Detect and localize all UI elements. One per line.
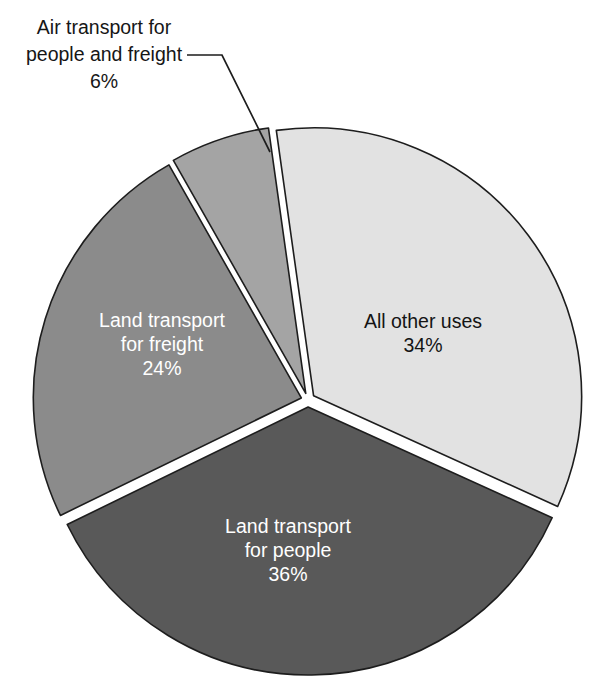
callout-label-text: Air transport forpeople and freight6% [26,16,183,92]
pie-chart-canvas: All other uses34%Land transportfor peopl… [0,0,591,696]
pie-chart: All other uses34%Land transportfor peopl… [0,0,591,696]
pie-slices-group [33,128,581,675]
callout-label: Air transport forpeople and freight6% [26,16,183,92]
